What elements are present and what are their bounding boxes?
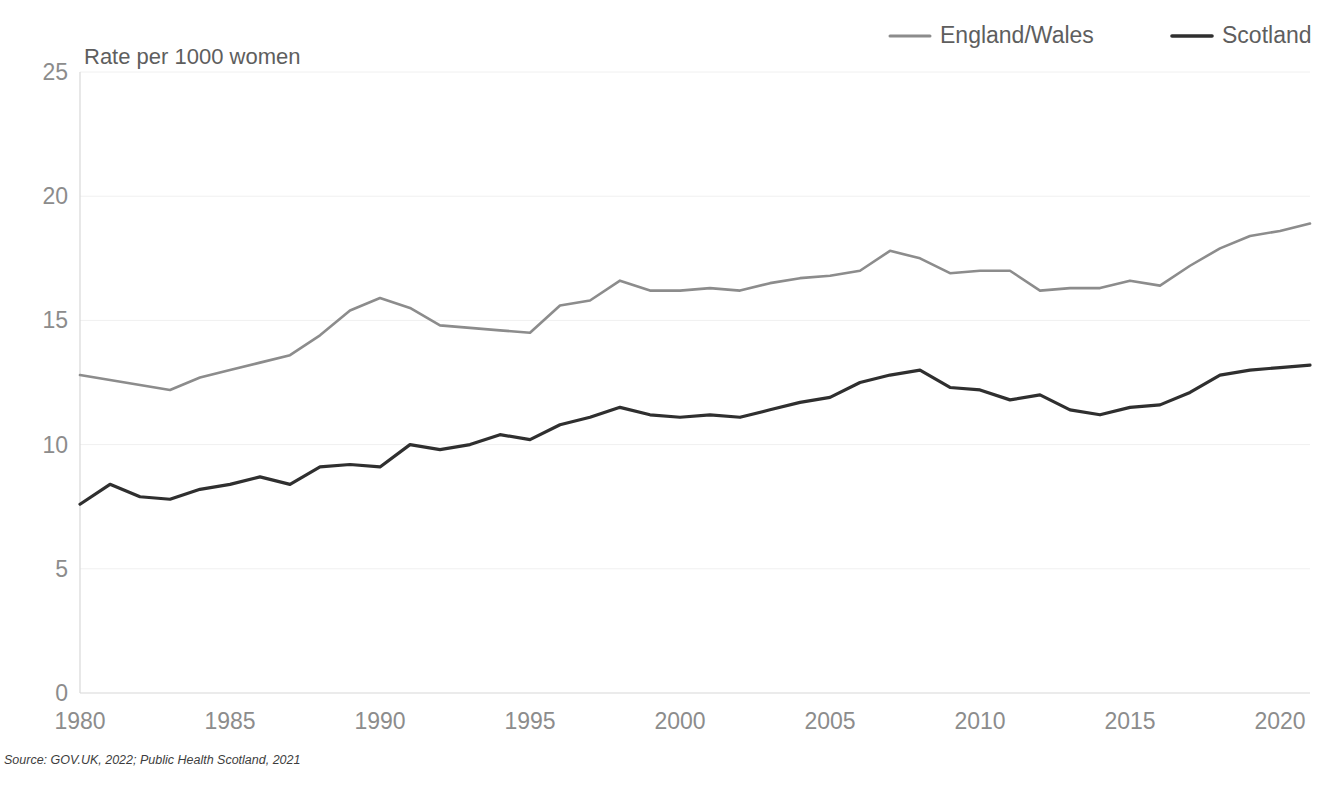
- x-tick-label: 1995: [504, 708, 555, 734]
- y-tick-label: 20: [42, 183, 68, 209]
- y-tick-label: 0: [55, 680, 68, 706]
- gridlines: [80, 72, 1310, 569]
- y-tick-label: 15: [42, 307, 68, 333]
- source-note: Source: GOV.UK, 2022; Public Health Scot…: [4, 753, 300, 767]
- legend-label: England/Wales: [940, 22, 1094, 48]
- x-tick-label: 2010: [954, 708, 1005, 734]
- x-tick-label: 2005: [804, 708, 855, 734]
- x-tick-label: 2020: [1254, 708, 1305, 734]
- legend: England/WalesScotland: [890, 22, 1312, 48]
- series-lines: [80, 224, 1310, 505]
- series-line-england-wales: [80, 224, 1310, 390]
- x-tick-label: 1980: [54, 708, 105, 734]
- x-tick-label: 2000: [654, 708, 705, 734]
- x-tick-label: 2015: [1104, 708, 1155, 734]
- y-tick-label: 25: [42, 59, 68, 85]
- y-tick-labels: 0510152025: [42, 59, 68, 706]
- series-line-scotland: [80, 365, 1310, 504]
- legend-label: Scotland: [1222, 22, 1312, 48]
- y-axis-title: Rate per 1000 women: [84, 44, 300, 69]
- line-chart: 0510152025 19801985199019952000200520102…: [0, 0, 1338, 789]
- x-tick-label: 1990: [354, 708, 405, 734]
- x-tick-label: 1985: [204, 708, 255, 734]
- y-tick-label: 5: [55, 556, 68, 582]
- x-tick-labels: 198019851990199520002005201020152020: [54, 708, 1305, 734]
- y-tick-label: 10: [42, 432, 68, 458]
